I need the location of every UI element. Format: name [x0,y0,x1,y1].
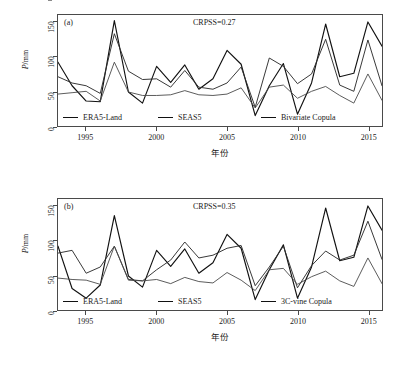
y-axis-panel-a: 050100150 [45,14,57,127]
x-tick-label: 2005 [219,317,235,326]
panel-label-b: (b) [64,202,73,211]
panel-b: 050100150 P/mm (b) CRPSS=0.35 ERA5-Land … [0,184,409,367]
y-axis-title-unit: /mm [21,234,30,249]
legend-label: ERA5-Land [83,296,122,307]
y-tick-label: 50 [48,92,56,100]
legend-label: ERA5-Land [83,112,122,123]
x-axis-title-panel-a: 年份 [57,146,383,158]
y-axis-panel-b: 050100150 [45,198,57,311]
y-tick-label: 100 [48,240,56,252]
y-tick-label: 100 [48,56,56,68]
x-axis-title-panel-b: 年份 [57,330,383,342]
legend-panel-a: ERA5-Land SEAS5 Bivariate Copula [63,112,379,123]
legend-label: SEAS5 [178,296,202,307]
series-line-bivariate-copula [58,62,382,108]
y-axis-title-unit: /mm [21,50,30,65]
y-axis-title-panel-b: P/mm [21,234,30,254]
x-tick-label: 1995 [77,317,93,326]
x-tick-mark [156,127,157,131]
series-lines-panel-a [58,15,382,126]
legend-line-icon [261,117,276,118]
x-tick-mark [85,311,86,315]
x-tick-mark [298,311,299,315]
y-tick-label: 150 [48,205,56,217]
y-tick-label: 50 [48,276,56,284]
x-tick-mark [85,127,86,131]
x-tick-mark [227,127,228,131]
x-tick-mark [369,127,370,131]
series-lines-panel-b [58,199,382,310]
plot-area-panel-b: (b) CRPSS=0.35 ERA5-Land SEAS5 3C-vine C… [57,198,383,311]
y-tick-label: 150 [48,21,56,33]
legend-panel-b: ERA5-Land SEAS5 3C-vine Copula [63,296,379,307]
plot-area-panel-a: (a) CRPSS=0.27 ERA5-Land SEAS5 Bivariate… [57,14,383,127]
legend-label: 3C-vine Copula [281,296,332,307]
legend-line-icon [63,301,78,302]
crpss-annotation-b: CRPSS=0.35 [193,202,236,211]
x-tick-label: 2015 [361,317,377,326]
x-tick-label: 2005 [219,133,235,142]
y-tick-label: 0 [48,127,56,131]
y-tick-label: 0 [48,311,56,315]
crpss-annotation-a: CRPSS=0.27 [193,18,236,27]
x-tick-label: 2015 [361,133,377,142]
x-tick-mark [298,127,299,131]
x-tick-mark [227,311,228,315]
legend-label: SEAS5 [178,112,202,123]
series-line-era5-land [58,206,382,300]
legend-line-icon [63,117,78,118]
x-tick-mark [369,311,370,315]
legend-line-icon [158,117,173,118]
x-tick-mark [156,311,157,315]
panel-a: 050100150 P/mm (a) CRPSS=0.27 ERA5-Land … [0,0,409,183]
series-line-seas5 [58,34,382,108]
legend-line-icon [261,301,276,302]
legend-label: Bivariate Copula [281,112,335,123]
x-tick-label: 1995 [77,133,93,142]
x-tick-label: 2010 [290,133,306,142]
figure-root: 050100150 P/mm (a) CRPSS=0.27 ERA5-Land … [0,0,409,367]
y-axis-title-symbol: P [21,248,30,253]
x-tick-label: 2000 [148,133,164,142]
y-axis-title-panel-a: P/mm [21,50,30,70]
x-tick-label: 2000 [148,317,164,326]
y-axis-title-symbol: P [21,64,30,69]
legend-line-icon [158,301,173,302]
panel-label-a: (a) [64,18,73,27]
x-tick-label: 2010 [290,317,306,326]
